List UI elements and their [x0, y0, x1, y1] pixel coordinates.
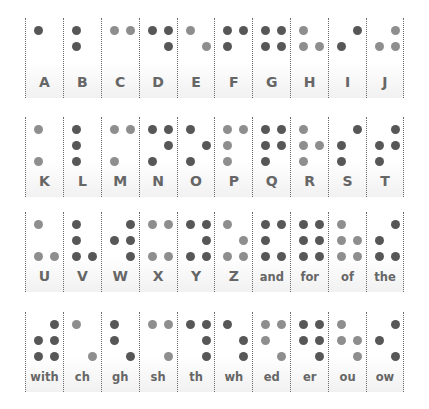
braille-dot: [375, 141, 384, 150]
braille-dot: [186, 220, 195, 229]
cell-label: B: [64, 74, 101, 90]
cell-label: D: [140, 74, 177, 90]
braille-dot: [353, 26, 362, 35]
braille-dot: [223, 220, 232, 229]
braille-dot: [239, 252, 248, 261]
braille-dot: [164, 220, 173, 229]
braille-cell: ed: [252, 312, 290, 392]
cell-label: K: [26, 173, 63, 189]
braille-cell: and: [252, 212, 290, 292]
cell-label: M: [102, 173, 139, 189]
braille-cell: F: [214, 18, 252, 98]
braille-dot: [164, 320, 173, 329]
braille-dot: [110, 320, 119, 329]
braille-cell: Q: [252, 117, 290, 197]
braille-cell: V: [63, 212, 101, 292]
braille-cell: N: [139, 117, 177, 197]
braille-cell: for: [290, 212, 328, 292]
braille-cell: M: [101, 117, 139, 197]
braille-cell: ch: [63, 312, 101, 392]
cell-label: sh: [140, 370, 177, 384]
braille-dot: [34, 336, 43, 345]
cell-label: T: [367, 173, 403, 189]
braille-dot: [88, 252, 97, 261]
braille-dot: [277, 26, 286, 35]
braille-dot: [50, 320, 59, 329]
braille-dot: [261, 336, 270, 345]
braille-dot: [126, 236, 135, 245]
braille-dot: [375, 42, 384, 51]
braille-dot: [239, 26, 248, 35]
braille-dot: [223, 42, 232, 51]
braille-dot: [126, 125, 135, 134]
braille-dot: [391, 26, 400, 35]
braille-dot: [164, 352, 173, 361]
braille-dot: [50, 336, 59, 345]
cell-label: Z: [215, 268, 252, 284]
braille-cell: E: [177, 18, 215, 98]
braille-dot: [337, 236, 346, 245]
braille-cell: H: [290, 18, 328, 98]
cell-label: F: [215, 74, 252, 90]
braille-cell: P: [214, 117, 252, 197]
braille-dot: [164, 252, 173, 261]
braille-dot: [299, 141, 308, 150]
braille-cell: er: [290, 312, 328, 392]
cell-label: I: [329, 74, 366, 90]
braille-cell: T: [366, 117, 404, 197]
braille-dot: [223, 320, 232, 329]
braille-dot: [315, 141, 324, 150]
braille-dot: [34, 26, 43, 35]
braille-dot: [223, 26, 232, 35]
braille-dot: [202, 236, 211, 245]
braille-dot: [277, 220, 286, 229]
braille-dot: [353, 125, 362, 134]
braille-dot: [337, 320, 346, 329]
braille-dot: [391, 125, 400, 134]
cell-label: O: [178, 173, 215, 189]
braille-dot: [337, 141, 346, 150]
braille-dot: [72, 141, 81, 150]
braille-dot: [126, 220, 135, 229]
braille-dot: [239, 236, 248, 245]
braille-cell: gh: [101, 312, 139, 392]
braille-dot: [299, 252, 308, 261]
braille-dot: [223, 125, 232, 134]
cell-label: of: [329, 270, 366, 284]
braille-dot: [315, 42, 324, 51]
braille-dot: [315, 336, 324, 345]
braille-dot: [148, 252, 157, 261]
braille-dot: [261, 125, 270, 134]
braille-dot: [110, 26, 119, 35]
braille-dot: [277, 252, 286, 261]
cell-label: the: [367, 270, 403, 284]
braille-dot: [337, 42, 346, 51]
braille-dot: [299, 236, 308, 245]
braille-cell: Y: [177, 212, 215, 292]
braille-dot: [353, 336, 362, 345]
braille-cell: B: [63, 18, 101, 98]
braille-dot: [239, 125, 248, 134]
braille-cell: G: [252, 18, 290, 98]
cell-label: th: [178, 370, 215, 384]
cell-label: Q: [253, 173, 290, 189]
braille-dot: [186, 157, 195, 166]
braille-dot: [72, 236, 81, 245]
braille-dot: [34, 252, 43, 261]
braille-cell: K: [25, 117, 63, 197]
braille-dot: [202, 42, 211, 51]
cell-label: U: [26, 268, 63, 284]
braille-dot: [315, 220, 324, 229]
braille-cell: Z: [214, 212, 252, 292]
braille-cell: th: [177, 312, 215, 392]
braille-dot: [375, 252, 384, 261]
braille-cell: of: [328, 212, 366, 292]
braille-row: ABCDEFGHIJ: [25, 18, 404, 98]
braille-cell: sh: [139, 312, 177, 392]
braille-cell: with: [25, 312, 63, 392]
braille-dot: [202, 336, 211, 345]
cell-label: P: [215, 173, 252, 189]
braille-dot: [164, 125, 173, 134]
braille-cell: D: [139, 18, 177, 98]
braille-dot: [353, 352, 362, 361]
